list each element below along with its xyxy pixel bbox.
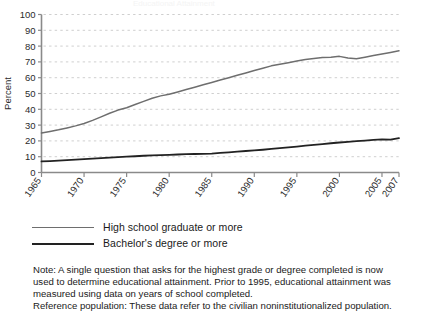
y-tick-label: 50 (25, 88, 36, 99)
x-tick-label: 2005 (362, 175, 383, 199)
x-tick-label: 2000 (320, 175, 341, 199)
educational-attainment-chart: Educational Attainment 01020304050607080… (0, 0, 426, 314)
y-tick-label: 40 (25, 104, 36, 115)
y-tick-label: 30 (25, 120, 36, 131)
note-line-1: Note: A single question that asks for th… (33, 264, 423, 276)
legend-label-high-school: High school graduate or more (94, 221, 243, 233)
note-line-4: Reference population: These data refer t… (33, 300, 423, 312)
legend-line-swatch-high-school (32, 221, 94, 233)
series-line-high-school-graduate-or-more (42, 51, 400, 133)
y-tick-label: 70 (25, 56, 36, 67)
legend-item-high-school: High school graduate or more (32, 219, 372, 235)
legend-line-swatch-bachelors (32, 237, 94, 249)
x-tick-label: 1990 (235, 175, 256, 199)
y-tick-label: 20 (25, 135, 36, 146)
note-line-3: measured using data on years of school c… (33, 288, 423, 300)
x-tick-label: 1965 (22, 175, 43, 199)
y-tick-label: 10 (25, 151, 36, 162)
y-tick-label: 60 (25, 72, 36, 83)
y-axis-title: Percent (2, 77, 13, 110)
y-tick-label: 80 (25, 41, 36, 52)
x-tick-label: 1995 (277, 175, 298, 199)
chart-footnotes: Note: A single question that asks for th… (33, 264, 423, 312)
y-tick-label: 100 (20, 9, 36, 20)
x-tick-label: 1970 (65, 175, 86, 199)
x-tick-label: 2007 (380, 175, 401, 199)
note-line-2: used to determine educational attainment… (33, 276, 423, 288)
x-tick-label: 1980 (150, 175, 171, 199)
x-tick-label: 1985 (192, 175, 213, 199)
y-tick-label: 90 (25, 25, 36, 36)
series-line-bachelor-s-degree-or-more (42, 138, 400, 161)
chart-plot-area: 0102030405060708090100Percent19651970197… (0, 0, 426, 215)
legend-item-bachelors: Bachelor's degree or more (32, 235, 372, 251)
chart-legend: High school graduate or more Bachelor's … (32, 219, 372, 251)
legend-label-bachelors: Bachelor's degree or more (94, 237, 228, 249)
x-tick-label: 1975 (107, 175, 128, 199)
